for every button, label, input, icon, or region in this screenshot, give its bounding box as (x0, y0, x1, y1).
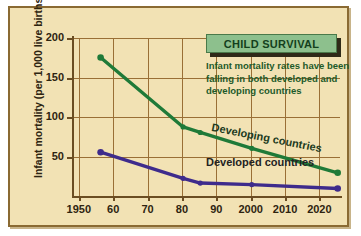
chart-title-badge: CHILD SURVIVAL (206, 34, 337, 53)
y-tick-mark (67, 157, 72, 159)
x-tick-mark (251, 196, 253, 201)
x-tick-label: 60 (107, 203, 119, 215)
x-tick-label: 2010 (273, 203, 297, 215)
x-tick-label: 2020 (307, 203, 331, 215)
y-tick-label: 200 (20, 31, 64, 43)
y-axis-line (72, 36, 74, 198)
chart-subtitle: Infant mortality rates have been falling… (206, 60, 356, 98)
y-tick-mark (67, 38, 72, 40)
x-tick-label: 80 (176, 203, 188, 215)
x-tick-label: 2000 (238, 203, 262, 215)
gridline-horizontal (72, 117, 340, 118)
y-tick-mark (67, 78, 72, 80)
x-tick-label: 70 (141, 203, 153, 215)
x-tick-mark (182, 196, 184, 201)
x-tick-mark (216, 196, 218, 201)
x-tick-mark (319, 196, 321, 201)
x-tick-mark (148, 196, 150, 201)
chart-panel: Infant mortality (per 1,000 live births)… (8, 6, 349, 227)
y-tick-label: 100 (20, 110, 64, 122)
x-tick-mark (79, 196, 81, 201)
y-tick-mark (67, 117, 72, 119)
series-label-developed: Developed countries (206, 156, 314, 168)
y-tick-label: 150 (20, 71, 64, 83)
y-tick-label: 50 (20, 150, 64, 162)
x-tick-mark (113, 196, 115, 201)
x-tick-label: 1950 (67, 203, 91, 215)
x-tick-label: 90 (210, 203, 222, 215)
x-tick-mark (285, 196, 287, 201)
